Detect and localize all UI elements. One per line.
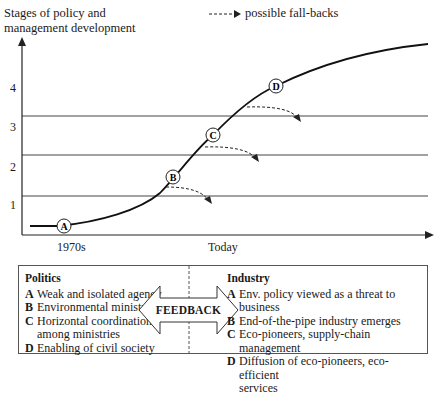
marker-c: C [206,128,220,142]
industry-item-a: AEnv. policy viewed as a threat to busin… [227,288,427,315]
development-curve [30,44,428,226]
industry-item-d: DDiffusion of eco-pioneers, eco-efficien… [227,355,427,382]
marker-b: B [166,170,180,184]
politics-header: Politics [25,272,175,286]
industry-column: Industry AEnv. policy viewed as a threat… [227,272,427,396]
y-tick-2: 2 [10,160,16,175]
fallback-arrow-c [205,147,255,158]
politics-item-d: DEnabling of civil society [25,342,175,356]
feedback-label: FEEDBACK [138,285,239,335]
y-axis-arrow-icon [18,37,26,46]
industry-item-d-cont: services [227,382,427,396]
fallback-arrow-b [166,187,208,200]
industry-header: Industry [227,272,427,286]
y-tick-4: 4 [10,81,16,96]
stage-chart: A B C D [0,0,437,262]
x-tick-1970s: 1970s [57,240,86,255]
svg-text:B: B [170,172,177,183]
marker-a: A [57,219,71,233]
svg-text:D: D [272,81,279,92]
svg-text:C: C [209,130,216,141]
industry-item-b: BEnd-of-the-pipe industry emerges [227,315,427,329]
y-tick-3: 3 [10,120,16,135]
fallback-arrow-d-head-icon [293,114,301,122]
y-tick-1: 1 [10,198,16,213]
feedback-arrow: FEEDBACK [138,285,239,335]
industry-item-c: CEco-pioneers, supply-chain management [227,328,427,355]
svg-text:A: A [60,221,68,232]
stages-table: Politics AWeak and isolated agency BEnvi… [18,265,428,354]
x-tick-today: Today [208,240,238,255]
marker-d: D [269,79,283,93]
x-axis-arrow-icon [425,231,434,239]
